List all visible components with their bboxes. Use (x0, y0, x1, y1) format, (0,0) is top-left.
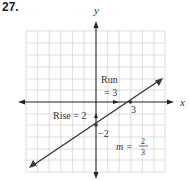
rise-label: Rise = 2 (53, 110, 86, 121)
x-intercept-label: 3 (131, 104, 136, 115)
slope-numerator: 2 (141, 137, 145, 146)
run-label: Run (101, 74, 118, 85)
y-intercept-point (94, 123, 98, 127)
axes (22, 24, 170, 176)
y-intercept-label: −2 (98, 128, 109, 139)
x-axis-label: x (179, 96, 185, 108)
slope-label: m = (116, 141, 132, 152)
y-axis-label: y (93, 4, 99, 16)
slope-denominator: 3 (141, 148, 145, 157)
coordinate-graph: y x Run = 3 Rise = 2 3 −2 m = 2 3 (0, 0, 189, 181)
run-value: = 3 (104, 87, 117, 98)
